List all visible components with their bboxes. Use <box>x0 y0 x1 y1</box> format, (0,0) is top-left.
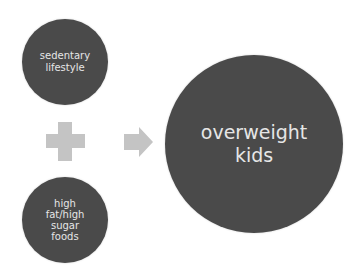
label-line: sugar <box>46 220 85 231</box>
label-line: fat/high <box>46 209 85 220</box>
result-circle-overweight-kids: overweight kids <box>165 55 343 233</box>
input-label-high-fat-sugar-foods: high fat/high sugar foods <box>46 198 85 242</box>
input-label-sedentary-lifestyle: sedentary lifestyle <box>40 50 90 74</box>
label-line: foods <box>46 231 85 242</box>
result-label: overweight kids <box>201 121 307 167</box>
arrow-right-icon <box>124 127 153 157</box>
label-line: lifestyle <box>40 62 90 74</box>
label-line: high <box>46 198 85 209</box>
label-line: sedentary <box>40 50 90 62</box>
input-circle-sedentary-lifestyle: sedentary lifestyle <box>22 19 108 105</box>
input-circle-high-fat-sugar-foods: high fat/high sugar foods <box>22 177 108 263</box>
label-line: kids <box>201 144 307 167</box>
label-line: overweight <box>201 121 307 144</box>
